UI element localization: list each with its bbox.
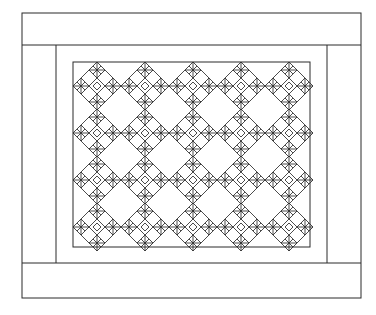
quilt-block	[217, 156, 265, 204]
quilt-block	[121, 109, 169, 157]
quilt-block	[121, 62, 169, 110]
quilt-block	[73, 203, 121, 251]
quilt-block	[73, 109, 121, 157]
quilt-block	[169, 203, 217, 251]
quilt-block	[217, 109, 265, 157]
quilt-block	[265, 109, 313, 157]
quilt-block	[73, 62, 121, 110]
quilt-block	[169, 62, 217, 110]
quilt-block	[169, 109, 217, 157]
quilt-block	[73, 156, 121, 204]
quilt-block	[217, 203, 265, 251]
quilt-block	[169, 156, 217, 204]
quilt-block	[265, 203, 313, 251]
quilt-block	[121, 203, 169, 251]
quilt-drawing	[0, 0, 376, 315]
quilt-block	[217, 62, 265, 110]
quilt-block	[265, 62, 313, 110]
quilt-block	[121, 156, 169, 204]
quilt-block	[265, 156, 313, 204]
quilt-blocks	[73, 62, 313, 251]
